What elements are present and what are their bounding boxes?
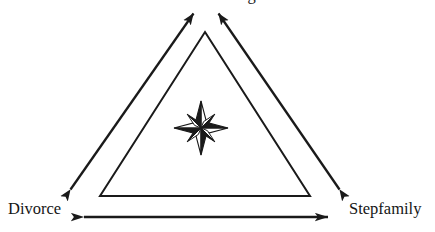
apex-node-label: Remarriage: [186, 0, 263, 4]
stepfamily-node-label: Stepfamily: [349, 201, 421, 218]
diagram-canvas: [0, 0, 435, 232]
divorce-node-label: Divorce: [8, 201, 61, 218]
figure-background: [0, 0, 435, 232]
triangle-diagram-figure: Remarriage Divorce Stepfamily: [0, 0, 435, 232]
